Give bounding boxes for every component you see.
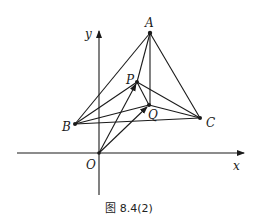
label-p: P — [125, 73, 135, 87]
point-q — [147, 103, 151, 107]
point-o — [97, 151, 101, 155]
label-b: B — [61, 120, 71, 134]
points — [73, 31, 202, 155]
point-a — [148, 31, 152, 35]
point-c — [198, 116, 202, 120]
label-y: y — [84, 27, 92, 41]
point-b — [73, 122, 77, 126]
inner-segments — [75, 33, 200, 124]
point-p — [135, 80, 139, 84]
label-a: A — [144, 16, 154, 30]
figure-caption: 图 8.4(2) — [105, 202, 153, 215]
geometry-diagram: A P Q B C O x y 图 8.4(2) — [0, 0, 259, 222]
vector-oq — [99, 107, 147, 153]
vector-op — [99, 84, 136, 153]
label-x: x — [233, 159, 240, 173]
label-o: O — [86, 158, 96, 172]
label-c: C — [206, 116, 215, 130]
label-q: Q — [148, 108, 158, 122]
